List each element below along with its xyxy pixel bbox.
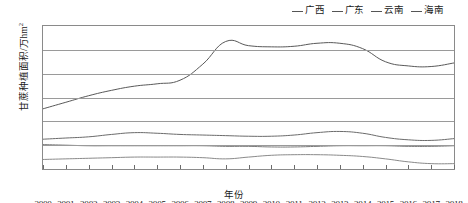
legend-swatch-line-icon: [332, 11, 343, 12]
x-axis-title: 年份: [0, 187, 468, 201]
gridline: [43, 74, 454, 75]
x-tick-mark: [454, 165, 455, 169]
legend-label: 海南: [424, 6, 444, 16]
gridline: [43, 98, 454, 99]
x-tick-mark: [340, 165, 341, 169]
x-tick-mark: [157, 165, 158, 169]
x-tick-mark: [226, 165, 227, 169]
x-tick-mark: [43, 165, 44, 169]
x-tick-mark: [66, 165, 67, 169]
x-tick-mark: [249, 165, 250, 169]
gridline: [43, 145, 454, 146]
x-tick-mark: [294, 165, 295, 169]
series-line: [43, 155, 454, 164]
x-tick-mark: [363, 165, 364, 169]
x-tick-mark: [112, 165, 113, 169]
plot-area: 020406080100120 200020012002200320042005…: [42, 25, 455, 170]
chart-legend: 广西 广东 云南 海南: [292, 3, 462, 19]
x-tick-mark: [317, 165, 318, 169]
x-tick-mark: [431, 165, 432, 169]
x-tick-mark: [134, 165, 135, 169]
legend-label: 广西: [305, 6, 325, 16]
legend-swatch-line-icon: [411, 11, 422, 12]
gridline: [43, 50, 454, 51]
chart-figure: 广西 广东 云南 海南 甘蔗种植面积/万hm2 020406080100120 …: [0, 0, 468, 203]
y-axis-title-text: 甘蔗种植面积/万hm: [19, 26, 29, 111]
x-tick-mark: [408, 165, 409, 169]
x-tick-mark: [386, 165, 387, 169]
x-tick-mark: [271, 165, 272, 169]
y-axis-title: 甘蔗种植面积/万hm2: [16, 0, 30, 142]
legend-item-guangdong: 广东: [332, 6, 365, 16]
legend-item-hainan: 海南: [411, 6, 444, 16]
x-tick-mark: [89, 165, 90, 169]
x-tick-mark: [180, 165, 181, 169]
legend-swatch-line-icon: [371, 11, 382, 12]
legend-label: 云南: [384, 6, 404, 16]
x-tick-mark: [203, 165, 204, 169]
legend-item-guangxi: 广西: [292, 6, 325, 16]
gridline: [43, 121, 454, 122]
y-axis-title-exponent: 2: [17, 23, 24, 26]
legend-item-yunnan: 云南: [371, 6, 404, 16]
legend-swatch-line-icon: [292, 11, 303, 12]
series-line: [43, 131, 454, 140]
legend-label: 广东: [345, 6, 365, 16]
